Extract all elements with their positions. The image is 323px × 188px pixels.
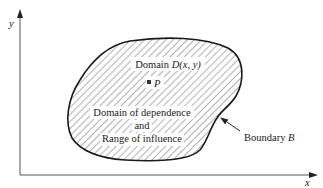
domain-desc-line1: Domain of dependence [93,107,191,118]
domain-desc-line3: Range of influence [102,133,182,144]
point-p-marker [147,80,151,84]
point-p-label: P [153,78,161,89]
domain-diagram: y x Domain D(x, y) P Domain of dependenc… [0,0,323,188]
boundary-label: Boundary B [244,132,295,143]
domain-title: Domain D(x, y) [135,59,201,71]
domain-desc-line2: and [134,120,150,131]
x-axis-label: x [304,177,310,188]
y-axis-label: y [8,18,14,29]
y-axis-arrow-icon [17,9,23,18]
x-axis-arrow-icon [309,172,318,178]
boundary-arrow-icon [221,118,240,131]
